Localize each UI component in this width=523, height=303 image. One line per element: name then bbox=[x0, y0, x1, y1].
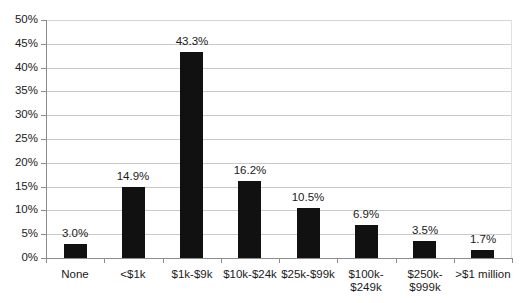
y-axis-tick bbox=[41, 139, 46, 140]
x-axis-tick bbox=[454, 258, 455, 263]
bar bbox=[64, 244, 87, 258]
x-axis-category-label: <$1k bbox=[104, 268, 162, 281]
y-axis-tick-label: 15% bbox=[0, 181, 38, 193]
y-axis-line bbox=[46, 20, 47, 259]
x-axis-category-label-line: $25k-$99k bbox=[279, 268, 337, 281]
gridline bbox=[46, 91, 512, 92]
y-axis-tick bbox=[41, 163, 46, 164]
bar bbox=[297, 208, 320, 258]
y-axis-tick bbox=[41, 44, 46, 45]
x-axis-category-label-line: $250k- bbox=[396, 268, 454, 281]
y-axis-tick bbox=[41, 210, 46, 211]
gridline bbox=[46, 115, 512, 116]
x-axis-category-label: None bbox=[46, 268, 104, 281]
bar-value-label: 3.0% bbox=[46, 228, 104, 240]
x-axis-category-label-line: $100k- bbox=[337, 268, 395, 281]
y-axis-tick bbox=[41, 20, 46, 21]
y-axis-tick bbox=[41, 68, 46, 69]
bar-value-label: 14.9% bbox=[104, 171, 162, 183]
x-axis-category-label: $100k-$249k bbox=[337, 268, 395, 294]
y-axis-tick-label: 5% bbox=[0, 228, 38, 240]
x-axis-category-label-line: $999k bbox=[396, 281, 454, 294]
x-axis-category-label-line: <$1k bbox=[104, 268, 162, 281]
y-axis-tick bbox=[41, 91, 46, 92]
bar bbox=[238, 181, 261, 258]
x-axis-tick bbox=[337, 258, 338, 263]
x-axis-category-label: $10k-$24k bbox=[221, 268, 279, 281]
bar bbox=[413, 241, 436, 258]
bar-value-label: 43.3% bbox=[163, 36, 221, 48]
y-axis-tick-label: 20% bbox=[0, 157, 38, 169]
x-axis-category-label: $250k-$999k bbox=[396, 268, 454, 294]
y-axis-tick-label: 10% bbox=[0, 204, 38, 216]
y-axis-tick-label: 30% bbox=[0, 109, 38, 121]
y-axis-tick-label: 40% bbox=[0, 62, 38, 74]
bar-value-label: 6.9% bbox=[337, 209, 395, 221]
bar-value-label: 3.5% bbox=[396, 225, 454, 237]
y-axis-tick-label: 0% bbox=[0, 252, 38, 264]
y-axis-tick-label: 50% bbox=[0, 14, 38, 26]
x-axis-category-label-line: >$1 million bbox=[454, 268, 512, 281]
plot-right-border bbox=[511, 20, 512, 259]
bar bbox=[471, 250, 494, 258]
gridline bbox=[46, 139, 512, 140]
x-axis-category-label-line: $1k-$9k bbox=[163, 268, 221, 281]
bar bbox=[180, 52, 203, 258]
x-axis-tick bbox=[396, 258, 397, 263]
x-axis-tick bbox=[279, 258, 280, 263]
y-axis-tick bbox=[41, 115, 46, 116]
plot-area bbox=[46, 20, 512, 258]
y-axis-tick-label: 35% bbox=[0, 85, 38, 97]
bar bbox=[355, 225, 378, 258]
gridline bbox=[46, 20, 512, 21]
bar-value-label: 1.7% bbox=[454, 234, 512, 246]
x-axis-category-label: >$1 million bbox=[454, 268, 512, 281]
x-axis-tick bbox=[512, 258, 513, 263]
x-axis-category-label-line: None bbox=[46, 268, 104, 281]
x-axis-tick bbox=[221, 258, 222, 263]
gridline bbox=[46, 44, 512, 45]
bar-value-label: 16.2% bbox=[221, 165, 279, 177]
x-axis-tick bbox=[46, 258, 47, 263]
x-axis-category-label: $1k-$9k bbox=[163, 268, 221, 281]
x-axis-category-label-line: $249k bbox=[337, 281, 395, 294]
y-axis-tick-label: 25% bbox=[0, 133, 38, 145]
bar-chart: 50%45%40%35%30%25%20%15%10%5%0% 3.0%14.9… bbox=[0, 0, 523, 303]
gridline bbox=[46, 68, 512, 69]
x-axis-category-label-line: $10k-$24k bbox=[221, 268, 279, 281]
bar bbox=[122, 187, 145, 258]
y-axis-tick bbox=[41, 187, 46, 188]
x-axis-tick bbox=[104, 258, 105, 263]
x-axis-tick bbox=[163, 258, 164, 263]
gridline bbox=[46, 210, 512, 211]
gridline bbox=[46, 187, 512, 188]
x-axis-category-label: $25k-$99k bbox=[279, 268, 337, 281]
y-axis-tick-label: 45% bbox=[0, 38, 38, 50]
bar-value-label: 10.5% bbox=[279, 192, 337, 204]
gridline bbox=[46, 163, 512, 164]
